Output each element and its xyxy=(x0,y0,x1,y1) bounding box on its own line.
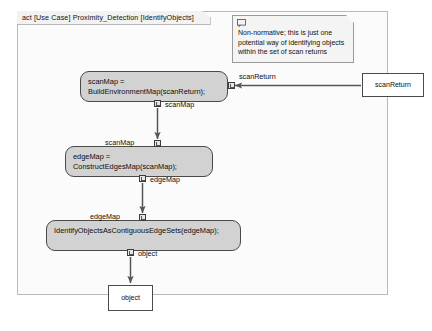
note-comment-icon xyxy=(237,19,246,27)
edge-label-object-out: object xyxy=(138,249,157,258)
object-node-object[interactable]: object xyxy=(108,285,153,311)
input-pin-edgemap[interactable] xyxy=(139,214,146,221)
diagram-canvas: act [Use Case] Proximity_Detection [Iden… xyxy=(0,0,432,331)
note-comment-text: Non-normative; this is just one potentia… xyxy=(238,28,352,57)
input-pin-scanmap[interactable] xyxy=(154,140,161,147)
edge-label-scanmap-out: scanMap xyxy=(165,100,194,109)
output-pin-object[interactable] xyxy=(127,249,134,256)
action-node-build-environment-map[interactable]: scanMap = BuildEnvironmentMap(scanReturn… xyxy=(80,71,228,102)
input-pin-scanreturn[interactable] xyxy=(228,82,235,89)
note-comment: Non-normative; this is just one potentia… xyxy=(232,15,354,63)
object-node-scanreturn[interactable]: scanReturn xyxy=(362,73,424,97)
edge-label-scanmap-in: scanMap xyxy=(105,138,134,147)
output-pin-scanmap[interactable] xyxy=(154,100,161,107)
edge-label-scanreturn-in: scanReturn xyxy=(239,72,276,81)
activity-frame-title: act [Use Case] Proximity_Detection [Iden… xyxy=(17,11,211,25)
edge-label-edgemap-out: edgeMap xyxy=(150,175,180,184)
output-pin-edgemap[interactable] xyxy=(139,175,146,182)
action-node-construct-edges-map[interactable]: edgeMap = ConstructEdgesMap(scanMap); xyxy=(65,146,213,177)
edge-label-edgemap-in: edgeMap xyxy=(90,212,120,221)
action-node-identify-objects[interactable]: IdentifyObjectsAsContiguousEdgeSets(edge… xyxy=(46,220,241,251)
